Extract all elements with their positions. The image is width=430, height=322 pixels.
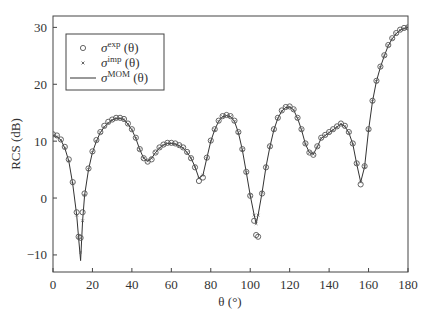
- imp-marker: [103, 126, 106, 129]
- x-axis-label: θ (°): [218, 294, 241, 309]
- imp-marker: [107, 122, 110, 125]
- imp-marker: [328, 131, 331, 134]
- exp-marker: [311, 152, 316, 157]
- x-tick-label: 160: [359, 277, 379, 292]
- legend: σexp (θ)σimp (θ)σMOM (θ): [66, 34, 164, 90]
- x-tick-label: 100: [240, 277, 260, 292]
- rcs-chart: 020406080100120140160180 −100102030 θ (°…: [0, 0, 430, 322]
- exp-marker: [80, 210, 85, 215]
- x-tick-label: 120: [280, 277, 300, 292]
- imp-marker: [150, 157, 153, 160]
- x-tick-label: 20: [86, 277, 99, 292]
- imp-marker: [154, 151, 157, 154]
- x-tick-label: 180: [398, 277, 418, 292]
- x-tick-label: 60: [165, 277, 178, 292]
- imp-marker: [158, 147, 161, 150]
- exp-marker: [252, 218, 257, 223]
- legend-label: σexp (θ): [101, 39, 139, 55]
- x-tick-label: 80: [204, 277, 217, 292]
- y-tick-label: 20: [34, 77, 47, 92]
- x-tick-label: 140: [319, 277, 339, 292]
- y-tick-label: 0: [41, 191, 48, 206]
- imp-marker: [336, 126, 339, 129]
- y-tick-label: 30: [34, 20, 47, 35]
- y-tick-label: 10: [34, 134, 47, 149]
- imp-marker: [186, 151, 189, 154]
- x-tick-label: 0: [50, 277, 57, 292]
- y-axis-label: RCS (dB): [8, 118, 23, 170]
- imp-marker: [395, 32, 398, 35]
- y-axis-ticks: −100102030: [27, 20, 57, 263]
- x-tick-label: 40: [125, 277, 138, 292]
- y-tick-label: −10: [27, 247, 47, 262]
